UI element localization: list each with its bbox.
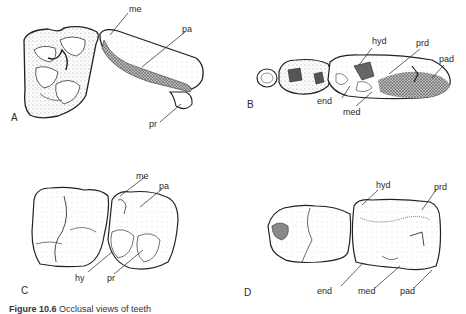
label-d-end: end — [317, 287, 332, 296]
label-c-pa: pa — [159, 182, 169, 191]
label-b-pad: pad — [439, 55, 454, 64]
panel-letter-c: C — [21, 286, 28, 296]
label-d-prd: prd — [434, 183, 447, 192]
label-d-pad: pad — [400, 287, 415, 296]
label-d-hyd: hyd — [376, 181, 391, 190]
label-c-pr: pr — [107, 274, 115, 283]
label-a-pa: pa — [182, 25, 192, 34]
panel-d-drawing — [268, 190, 441, 288]
label-d-med: med — [358, 287, 376, 296]
label-c-hy: hy — [75, 274, 85, 283]
panel-b-drawing — [257, 48, 450, 106]
panel-letter-b: B — [247, 100, 254, 110]
label-b-end: end — [317, 97, 332, 106]
caption-text: Occlusal views of teeth — [59, 304, 151, 314]
caption-number: Figure 10.6 — [9, 304, 57, 314]
panel-a-drawing — [24, 13, 203, 122]
label-b-hyd: hyd — [372, 37, 387, 46]
label-b-prd: prd — [416, 39, 429, 48]
panel-letter-a: A — [11, 113, 18, 123]
label-b-med: med — [343, 108, 361, 117]
figure-caption: Figure 10.6 Occlusal views of teeth — [9, 305, 151, 314]
panel-c-drawing — [32, 177, 178, 274]
label-a-me: me — [129, 5, 142, 14]
label-c-me: me — [136, 172, 149, 181]
panel-letter-d: D — [244, 288, 251, 298]
label-a-pr: pr — [149, 120, 157, 129]
